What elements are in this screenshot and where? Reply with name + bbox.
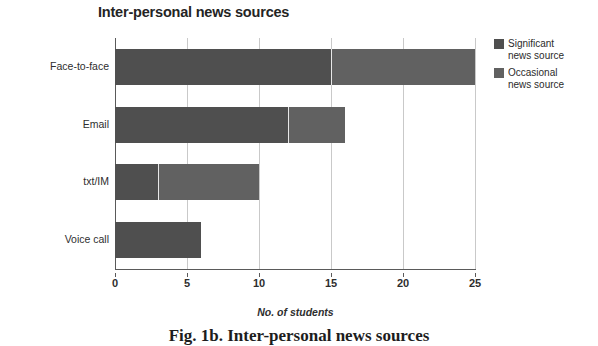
plot-area: [115, 38, 475, 269]
legend-entry-significant[interactable]: Significant news source: [494, 38, 598, 61]
legend: Significant news sourceOccasional news s…: [494, 38, 598, 96]
x-axis-ticks: 0510152025: [115, 273, 476, 289]
gridline-25: [475, 38, 476, 269]
legend-label: Occasional news source: [508, 67, 564, 90]
y-tick-label-email: Email: [5, 118, 109, 130]
bar-txt-im[interactable]: [115, 164, 259, 200]
y-tick-label-voice-call: Voice call: [5, 233, 109, 245]
y-tick-label-txt-im: txt/IM: [5, 175, 109, 187]
legend-swatch-icon: [494, 39, 504, 49]
legend-swatch-icon: [494, 68, 504, 78]
bar-segment-significant: [115, 164, 158, 200]
bar-segment-significant: [115, 222, 201, 258]
bar-segment-occasional: [158, 164, 259, 200]
x-tick-label-5: 5: [184, 277, 190, 289]
bar-segment-occasional: [331, 49, 475, 85]
bar-segment-significant: [115, 107, 288, 143]
x-tick-label-10: 10: [253, 277, 265, 289]
x-tick-label-15: 15: [325, 277, 337, 289]
legend-label: Significant news source: [508, 38, 564, 61]
x-tick-label-25: 25: [469, 277, 481, 289]
y-axis-labels: Face-to-faceEmailtxt/IMVoice call: [0, 38, 109, 269]
bar-voice-call[interactable]: [115, 222, 201, 258]
y-tick-label-face-to-face: Face-to-face: [5, 60, 109, 72]
bar-segment-significant: [115, 49, 331, 85]
legend-entry-occasional[interactable]: Occasional news source: [494, 67, 598, 90]
bar-face-to-face[interactable]: [115, 49, 475, 85]
figure-caption: Fig. 1b. Inter-personal news sources: [0, 326, 598, 346]
bar-email[interactable]: [115, 107, 345, 143]
bar-segment-occasional: [288, 107, 346, 143]
x-axis-title: No. of students: [115, 306, 476, 318]
x-tick-label-0: 0: [112, 277, 118, 289]
chart-title: Inter-personal news sources: [98, 4, 398, 20]
x-axis-line: [115, 269, 476, 270]
x-tick-label-20: 20: [397, 277, 409, 289]
